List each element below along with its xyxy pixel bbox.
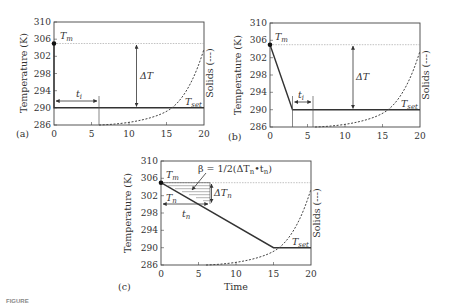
ytick-306: 306 xyxy=(141,173,158,183)
x-axis-label: Time xyxy=(224,281,248,292)
ytick-286: 286 xyxy=(250,122,267,132)
solids-curve xyxy=(206,189,311,265)
ytick-286: 286 xyxy=(34,120,51,130)
ytick-294: 294 xyxy=(34,86,51,96)
tm-label: Tm xyxy=(60,30,73,43)
xtick-0: 0 xyxy=(267,131,273,141)
ytick-294: 294 xyxy=(250,87,267,97)
xtick-5: 5 xyxy=(196,269,202,279)
tm-point xyxy=(268,42,273,47)
xtick-20: 20 xyxy=(198,129,210,139)
y-axis-label-right: Solids (---) xyxy=(420,50,431,99)
xtick-20: 20 xyxy=(414,131,426,141)
ytick-286: 286 xyxy=(141,260,158,270)
ytick-310: 310 xyxy=(250,18,267,28)
ytick-294: 294 xyxy=(141,225,158,235)
tm-point xyxy=(159,180,164,185)
panel-label: (a) xyxy=(16,128,29,139)
y-axis-label-right: Solids (---) xyxy=(204,48,215,97)
beta-pointer-arrow xyxy=(192,173,206,190)
tset-label: Tset xyxy=(185,96,202,109)
figure-canvas: 310 306 302 298 294 290 286 0 5 10 15 20… xyxy=(0,0,450,307)
ytick-302: 302 xyxy=(34,51,51,61)
ytick-310: 310 xyxy=(34,17,51,27)
ytick-290: 290 xyxy=(141,243,158,253)
tm-point xyxy=(52,41,57,46)
xtick-10: 10 xyxy=(230,269,242,279)
y-axis-label: Temperature (K) xyxy=(18,33,29,113)
xtick-10: 10 xyxy=(339,131,351,141)
solids-curve xyxy=(99,49,204,125)
xtick-20: 20 xyxy=(305,269,317,279)
xtick-15: 15 xyxy=(377,131,389,141)
panel-b: 310 306 302 298 294 290 286 0 5 10 15 20… xyxy=(228,18,431,142)
beta-formula: β = 1/2(ΔTn•tn) xyxy=(198,163,272,176)
panel-c: 310 306 302 298 294 290 286 0 5 10 15 20… xyxy=(118,156,322,292)
tn-temp-label: Tn xyxy=(166,192,177,205)
y-axis-label: Temperature (K) xyxy=(232,35,243,115)
ytick-290: 290 xyxy=(250,105,267,115)
ytick-298: 298 xyxy=(141,208,158,218)
xtick-10: 10 xyxy=(123,129,135,139)
xtick-0: 0 xyxy=(158,269,164,279)
delta-t-label: ΔT xyxy=(139,70,154,81)
ytick-302: 302 xyxy=(250,53,267,63)
ti-label: ti xyxy=(298,89,304,102)
delta-tn-label: ΔTn xyxy=(213,187,232,200)
ytick-302: 302 xyxy=(141,191,158,201)
y-axis-label-right: Solids (---) xyxy=(311,188,322,237)
ti-label: ti xyxy=(76,88,82,101)
ytick-298: 298 xyxy=(34,69,51,79)
panel-a: 310 306 302 298 294 290 286 0 5 10 15 20… xyxy=(16,17,215,139)
xtick-0: 0 xyxy=(51,129,57,139)
xtick-5: 5 xyxy=(305,131,311,141)
panel-label: (c) xyxy=(118,281,131,292)
xtick-15: 15 xyxy=(161,129,173,139)
xtick-5: 5 xyxy=(89,129,95,139)
delta-t-label: ΔT xyxy=(355,71,370,82)
ytick-290: 290 xyxy=(34,103,51,113)
tm-label: Tm xyxy=(166,169,179,182)
tn-time-label: tn xyxy=(182,208,191,221)
panel-label: (b) xyxy=(228,131,242,142)
xtick-15: 15 xyxy=(268,269,280,279)
y-axis-label: Temperature (K) xyxy=(122,173,133,253)
solids-curve xyxy=(315,51,420,127)
ytick-298: 298 xyxy=(250,70,267,80)
ytick-306: 306 xyxy=(250,35,267,45)
tm-label: Tm xyxy=(275,31,288,44)
figure-caption: FIGURE xyxy=(6,298,29,304)
ytick-310: 310 xyxy=(141,156,158,166)
plot-frame xyxy=(54,22,204,125)
ytick-306: 306 xyxy=(34,34,51,44)
y-ticks xyxy=(270,23,273,127)
